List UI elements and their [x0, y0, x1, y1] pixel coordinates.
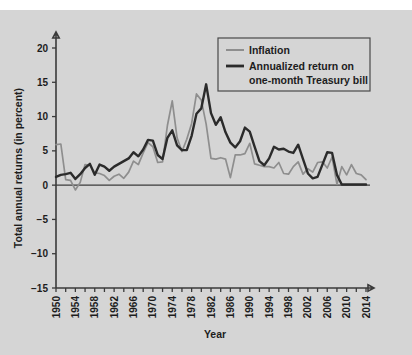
x-tick-label: 2002 — [302, 296, 313, 319]
x-tick-label: 2010 — [341, 296, 352, 319]
y-tick-label: −15 — [31, 283, 48, 294]
x-tick-label: 1970 — [147, 296, 158, 319]
chart-figure: 20151050−5−10−15 19501954195819621966197… — [0, 0, 412, 355]
y-tick-label: 0 — [42, 180, 48, 191]
line-chart: 20151050−5−10−15 19501954195819621966197… — [0, 0, 412, 355]
x-tick-label: 1978 — [186, 296, 197, 319]
legend-label-tbill-line1: Annualized return on — [249, 60, 354, 72]
x-tick-label: 1974 — [167, 296, 178, 319]
x-tick-label: 1954 — [70, 296, 81, 319]
y-tick-label: −5 — [37, 214, 49, 225]
chart-legend: Inflation Annualized return on one-month… — [218, 38, 370, 91]
x-tick-label: 1982 — [206, 296, 217, 319]
y-tick-label: 10 — [37, 111, 49, 122]
x-tick-label: 1998 — [283, 296, 294, 319]
legend-label-inflation: Inflation — [249, 44, 290, 56]
y-tick-label: 5 — [42, 145, 48, 156]
y-tick-label: 20 — [37, 43, 49, 54]
x-tick-label: 1990 — [244, 296, 255, 319]
y-axis-title: Total annual returns (in percent) — [12, 88, 24, 248]
x-tick-label: 1966 — [128, 296, 139, 319]
x-tick-label: 1986 — [225, 296, 236, 319]
series-line-tbill — [56, 84, 366, 184]
x-tick-label: 2006 — [322, 296, 333, 319]
x-tick-label: 2014 — [361, 296, 372, 319]
y-tick-label: −10 — [31, 248, 48, 259]
y-axis-tick-labels: 20151050−5−10−15 — [31, 43, 48, 294]
x-tick-label: 1962 — [109, 296, 120, 319]
legend-label-tbill-line2: one-month Treasury bill — [249, 74, 368, 86]
x-tick-label: 1994 — [264, 296, 275, 319]
x-axis-line — [56, 285, 374, 291]
x-axis-title: Year — [204, 328, 226, 340]
y-axis-line — [53, 32, 59, 288]
x-tick-label: 1950 — [51, 296, 62, 319]
y-tick-label: 15 — [37, 77, 49, 88]
x-tick-label: 1958 — [89, 296, 100, 319]
x-axis-tick-labels: 1950195419581962196619701974197819821986… — [51, 296, 372, 319]
